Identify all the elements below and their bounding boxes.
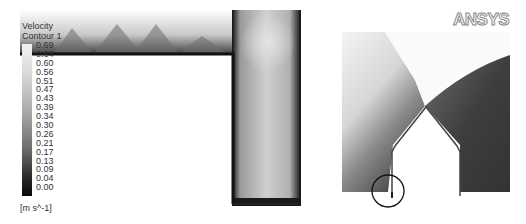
legend-value: 0.00 (36, 183, 54, 192)
legend-title-line1: Velocity (22, 21, 62, 31)
legend-color-bar (22, 44, 32, 196)
legend-tick-labels: 0.69 0.64 0.60 0.56 0.51 0.47 0.43 0.39 … (36, 41, 54, 192)
right-contour-plot: ANSYS (330, 0, 526, 224)
right-contour-graphic (330, 0, 526, 224)
legend-unit: [m s^-1] (20, 203, 52, 213)
ansys-logo: ANSYS (453, 10, 509, 30)
left-contour-plot: Velocity Contour 1 0.69 0.64 0.60 0.56 0… (0, 0, 310, 224)
legend-title: Velocity Contour 1 (22, 21, 62, 41)
